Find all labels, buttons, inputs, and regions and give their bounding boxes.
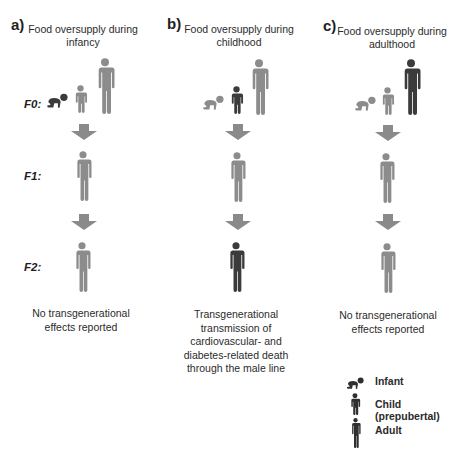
- gen-label-f2: F2:: [24, 261, 41, 273]
- adult-icon: [349, 418, 362, 448]
- adult-icon-f1: [74, 151, 92, 201]
- panel-title: Food oversupply during childhood: [169, 23, 309, 49]
- adult-icon-f2: [73, 242, 91, 292]
- child-icon: [73, 85, 88, 113]
- panel-title-line: childhood: [169, 36, 309, 49]
- adult-icon: [249, 59, 269, 115]
- panel-title: Food oversupply during infancy: [13, 23, 153, 49]
- panel-caption: No transgenerational effects reported: [6, 307, 156, 334]
- down-arrow-icon: [225, 124, 251, 140]
- infant-icon: [354, 96, 376, 111]
- adult-icon-f2: [378, 243, 396, 293]
- panel-title: Food oversupply during adulthood: [322, 25, 462, 51]
- panel-title-line: Food oversupply during: [169, 23, 309, 36]
- panel-title-line: adulthood: [322, 38, 462, 51]
- panel-title-line: infancy: [13, 36, 153, 49]
- adult-icon: [401, 59, 421, 115]
- caption-line: No transgenerational: [313, 309, 463, 323]
- caption-line: No transgenerational: [6, 307, 156, 321]
- caption-line: cardiovascular- and: [161, 335, 311, 349]
- legend-label-infant: Infant: [375, 375, 404, 387]
- down-arrow-icon: [375, 214, 401, 230]
- child-icon: [380, 87, 395, 115]
- caption-line: transmission of: [161, 322, 311, 336]
- down-arrow-icon: [71, 124, 97, 140]
- panel-title-line: Food oversupply during: [322, 25, 462, 38]
- legend-label-adult: Adult: [375, 424, 402, 436]
- down-arrow-icon: [71, 214, 97, 230]
- child-icon: [229, 86, 244, 114]
- adult-icon-f1: [228, 152, 246, 202]
- adult-icon: [95, 58, 115, 114]
- gen-label-f1: F1:: [24, 170, 41, 182]
- infant-icon: [346, 377, 364, 389]
- down-arrow-icon: [375, 125, 401, 141]
- adult-icon-f1: [377, 153, 395, 203]
- gen-label-f0: F0:: [24, 98, 41, 110]
- infant-icon: [202, 95, 224, 110]
- caption-line: effects reported: [313, 323, 463, 337]
- infant-icon: [46, 93, 68, 108]
- child-icon: [349, 393, 361, 415]
- down-arrow-icon: [225, 214, 251, 230]
- panel-title-line: Food oversupply during: [13, 23, 153, 36]
- panel-caption: Transgenerational transmission of cardio…: [161, 308, 311, 376]
- caption-line: through the male line: [161, 362, 311, 376]
- caption-line: diabetes-related death: [161, 349, 311, 363]
- adult-icon-f2: [227, 242, 245, 292]
- caption-line: effects reported: [6, 321, 156, 335]
- caption-line: Transgenerational: [161, 308, 311, 322]
- panel-caption: No transgenerational effects reported: [313, 309, 463, 336]
- legend-label-child: Child (prepubertal): [375, 398, 466, 422]
